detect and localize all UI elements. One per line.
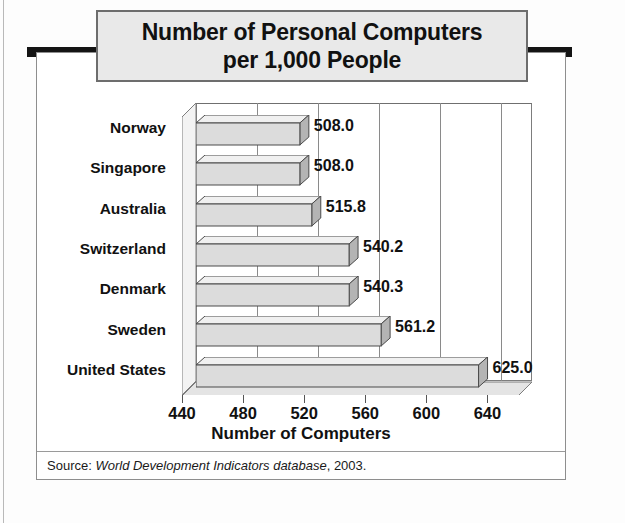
category-label: Norway bbox=[36, 108, 174, 148]
x-axis-tick-label: 640 bbox=[474, 404, 502, 423]
page-left-edge bbox=[3, 0, 4, 523]
bar-row: 540.2 bbox=[196, 229, 532, 269]
x-axis-tick-label: 440 bbox=[168, 404, 196, 423]
x-axis-tick bbox=[365, 395, 366, 403]
source-suffix: , 2003. bbox=[327, 458, 367, 473]
category-label: Sweden bbox=[36, 309, 174, 349]
bar-shape bbox=[196, 276, 359, 308]
plot-left-depth-wall bbox=[182, 103, 197, 395]
bar-sweden bbox=[196, 316, 390, 339]
category-label: Australia bbox=[36, 189, 174, 229]
bar-row: 508.0 bbox=[196, 108, 532, 148]
x-axis-tick bbox=[487, 395, 488, 403]
bar-row: 540.3 bbox=[196, 269, 532, 309]
bars-group: 508.0508.0515.8540.2540.3561.2625.0 bbox=[196, 108, 532, 390]
bar-shape bbox=[196, 115, 310, 147]
bar-shape bbox=[196, 236, 359, 268]
bar-value-label: 508.0 bbox=[314, 157, 354, 175]
bar-row: 561.2 bbox=[196, 309, 532, 349]
category-label: Singapore bbox=[36, 148, 174, 188]
x-axis-tick bbox=[426, 395, 427, 403]
plot-wrapper: NorwaySingaporeAustraliaSwitzerlandDenma… bbox=[36, 95, 566, 445]
bar-row: 625.0 bbox=[196, 350, 532, 390]
bar-value-label: 625.0 bbox=[493, 359, 533, 377]
x-axis-tick-label: 480 bbox=[229, 404, 257, 423]
bar-shape bbox=[196, 155, 310, 187]
x-axis-tick bbox=[304, 395, 305, 403]
bar-switzerland bbox=[196, 236, 358, 259]
category-axis-labels: NorwaySingaporeAustraliaSwitzerlandDenma… bbox=[36, 108, 174, 390]
bar-value-label: 540.3 bbox=[363, 278, 403, 296]
bar-row: 515.8 bbox=[196, 189, 532, 229]
plot-area: 508.0508.0515.8540.2540.3561.2625.0 bbox=[182, 103, 532, 395]
chart-title-box: Number of Personal Computers per 1,000 P… bbox=[96, 10, 528, 82]
bar-united-states bbox=[196, 357, 488, 380]
chart-title-line-2: per 1,000 People bbox=[223, 46, 401, 74]
source-prefix: Source: bbox=[47, 458, 95, 473]
source-separator bbox=[37, 451, 565, 452]
x-axis-tick-label: 600 bbox=[413, 404, 441, 423]
bar-denmark bbox=[196, 276, 358, 299]
chart-page: Number of Personal Computers per 1,000 P… bbox=[0, 0, 625, 523]
bar-value-label: 561.2 bbox=[395, 318, 435, 336]
x-axis-tick bbox=[182, 395, 183, 403]
x-axis-tick-label: 520 bbox=[290, 404, 318, 423]
bar-shape bbox=[196, 357, 489, 389]
x-axis-tick-label: 560 bbox=[352, 404, 380, 423]
bar-value-label: 508.0 bbox=[314, 117, 354, 135]
x-axis-tick bbox=[243, 395, 244, 403]
chart-title-line-1: Number of Personal Computers bbox=[142, 18, 483, 46]
bar-singapore bbox=[196, 155, 309, 178]
bar-value-label: 515.8 bbox=[326, 198, 366, 216]
source-note: Source: World Development Indicators dat… bbox=[47, 458, 366, 473]
bar-shape bbox=[196, 196, 322, 228]
bar-value-label: 540.2 bbox=[363, 238, 403, 256]
source-title: World Development Indicators database bbox=[95, 458, 326, 473]
category-label: Switzerland bbox=[36, 229, 174, 269]
category-label: Denmark bbox=[36, 269, 174, 309]
bar-shape bbox=[196, 316, 391, 348]
category-label: United States bbox=[36, 350, 174, 390]
bar-row: 508.0 bbox=[196, 148, 532, 188]
bar-australia bbox=[196, 196, 321, 219]
bar-norway bbox=[196, 115, 309, 138]
x-axis-title: Number of Computers bbox=[36, 424, 566, 444]
